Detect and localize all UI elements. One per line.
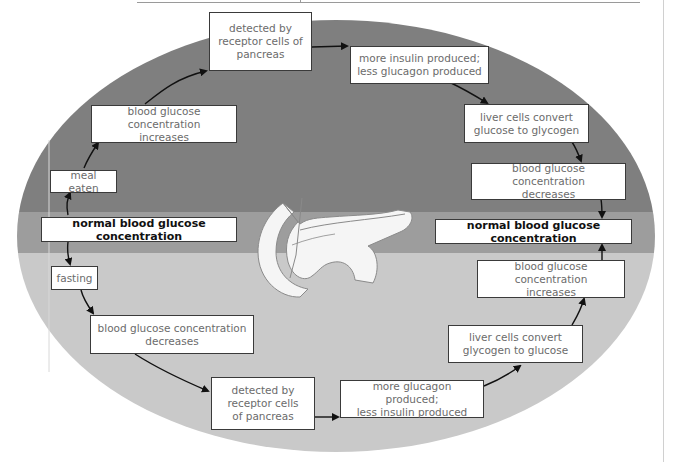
- fasting-box: fasting: [51, 266, 98, 290]
- more-insulin-box: more insulin produced; less glucagon pro…: [350, 46, 489, 84]
- blood-glucose-increases-label: blood glucose concentration increases: [96, 105, 232, 144]
- fasting-label: fasting: [57, 272, 93, 285]
- normal-glucose-label-left: normal blood glucose concentration: [46, 217, 232, 243]
- glucose-regulation-diagram: meal eaten blood glucose concentration i…: [0, 0, 674, 462]
- blood-glucose-increases-box-top: blood glucose concentration increases: [91, 105, 237, 143]
- detected-by-receptor-box-top: detected by receptor cells of pancreas: [209, 12, 312, 71]
- detected-by-receptor-label: detected by receptor cells of pancreas: [218, 22, 303, 61]
- detected-by-receptor-label-bottom: detected by receptor cells of pancreas: [227, 384, 298, 423]
- more-insulin-label: more insulin produced; less glucagon pro…: [357, 52, 482, 78]
- blood-glucose-increases-box-bottom: blood glucose concentration increases: [477, 260, 625, 298]
- blood-glucose-increases-label-bottom: blood glucose concentration increases: [482, 260, 620, 299]
- liver-glycogen-to-glucose-label: liver cells convert glycogen to glucose: [463, 331, 568, 357]
- more-glucagon-label: more glucagon produced; less insulin pro…: [345, 380, 479, 419]
- blood-glucose-decreases-box-top: blood glucose concentration decreases: [471, 163, 626, 200]
- normal-glucose-label-right: normal blood glucose concentration: [440, 219, 627, 245]
- detected-by-receptor-box-bottom: detected by receptor cells of pancreas: [211, 377, 315, 430]
- blood-glucose-decreases-label-bottom: blood glucose concentration decreases: [98, 322, 247, 348]
- normal-glucose-box-right: normal blood glucose concentration: [435, 219, 632, 244]
- liver-glucose-to-glycogen-label: liver cells convert glucose to glycogen: [474, 111, 579, 137]
- more-glucagon-box: more glucagon produced; less insulin pro…: [340, 380, 484, 418]
- blood-glucose-decreases-label: blood glucose concentration decreases: [476, 162, 621, 201]
- liver-glucose-to-glycogen-box: liver cells convert glucose to glycogen: [464, 104, 589, 143]
- meal-eaten-box: meal eaten: [50, 170, 117, 193]
- blood-glucose-decreases-box-bottom: blood glucose concentration decreases: [90, 315, 254, 354]
- liver-glycogen-to-glucose-box: liver cells convert glycogen to glucose: [448, 325, 583, 363]
- normal-glucose-box-left: normal blood glucose concentration: [41, 217, 237, 242]
- meal-eaten-label: meal eaten: [55, 169, 112, 195]
